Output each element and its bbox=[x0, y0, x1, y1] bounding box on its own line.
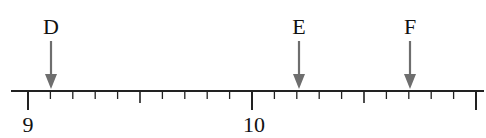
arrow-down-icon bbox=[293, 74, 305, 89]
marker-d: D bbox=[43, 14, 59, 89]
tick-label-9: 9 bbox=[23, 112, 34, 137]
marker-d-label: D bbox=[43, 14, 59, 39]
tick-marks bbox=[28, 91, 476, 110]
marker-f-label: F bbox=[404, 14, 416, 39]
number-line-diagram: D E F 9 10 bbox=[0, 0, 486, 138]
marker-e-label: E bbox=[292, 14, 305, 39]
arrow-down-icon bbox=[404, 74, 416, 89]
markers: D E F bbox=[43, 14, 416, 89]
arrow-down-icon bbox=[45, 74, 57, 89]
marker-f: F bbox=[404, 14, 416, 89]
tick-label-10: 10 bbox=[243, 112, 265, 137]
marker-e: E bbox=[292, 14, 305, 89]
